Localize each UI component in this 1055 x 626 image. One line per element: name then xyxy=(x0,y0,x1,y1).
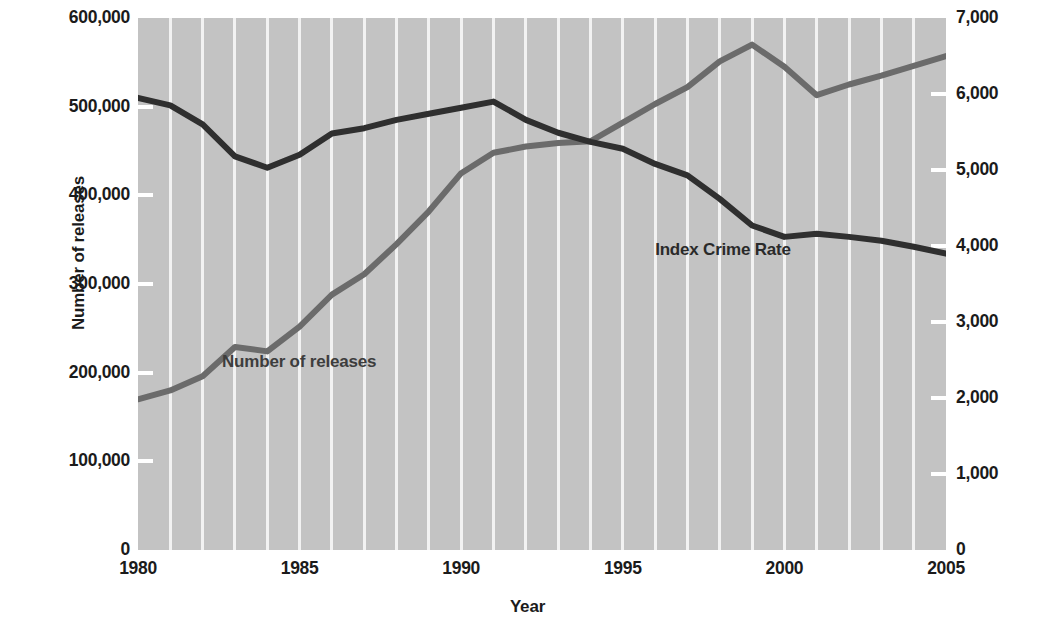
y-tick-label-left: 0 xyxy=(121,539,130,560)
y-tick-label-right: 7,000 xyxy=(956,7,998,28)
y-axis-left-title: Number of releases xyxy=(69,148,89,358)
y-tick-label-right: 4,000 xyxy=(956,235,998,256)
x-tick-label: 1995 xyxy=(573,558,673,579)
y-tick-label-left: 500,000 xyxy=(69,96,130,117)
chart-figure: 0100,000200,000300,000400,000500,000600,… xyxy=(0,0,1055,626)
y-tick-label-right: 6,000 xyxy=(956,83,998,104)
line-index-crime-rate xyxy=(138,98,946,254)
series-label-number-of-releases: Number of releases xyxy=(222,352,376,372)
y-tick-label-right: 0 xyxy=(956,539,965,560)
x-tick-label: 2005 xyxy=(896,558,996,579)
y-tick-label-left: 200,000 xyxy=(69,362,130,383)
y-tick-label-right: 3,000 xyxy=(956,311,998,332)
line-number-of-releases xyxy=(138,45,946,400)
y-tick-label-left: 100,000 xyxy=(69,450,130,471)
x-tick-label: 1990 xyxy=(411,558,511,579)
y-tick-label-left: 600,000 xyxy=(69,7,130,28)
series-lines xyxy=(138,18,946,550)
x-tick-label: 1980 xyxy=(88,558,188,579)
y-tick-label-right: 2,000 xyxy=(956,387,998,408)
plot-area: Number of releases Index Crime Rate xyxy=(138,18,946,550)
y-tick-label-right: 5,000 xyxy=(956,159,998,180)
x-axis-title: Year xyxy=(0,597,1055,617)
series-label-index-crime-rate: Index Crime Rate xyxy=(655,240,791,260)
x-tick-label: 2000 xyxy=(734,558,834,579)
x-tick-label: 1985 xyxy=(250,558,350,579)
y-tick-label-right: 1,000 xyxy=(956,463,998,484)
